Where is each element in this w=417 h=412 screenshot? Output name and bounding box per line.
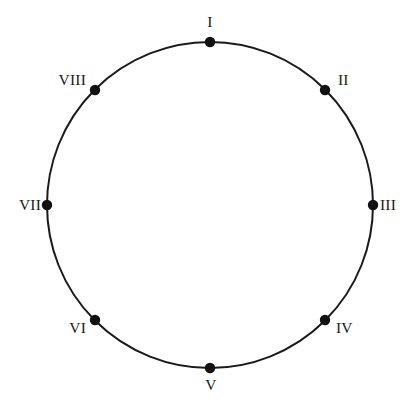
vertex-label: I — [207, 13, 212, 30]
vertex-point[interactable] — [205, 37, 215, 47]
vertex-label: IV — [336, 319, 353, 336]
vertex-label: VII — [19, 196, 41, 213]
vertex-point[interactable] — [42, 200, 52, 210]
vertex-point[interactable] — [320, 315, 330, 325]
vertex-label: VI — [69, 319, 86, 336]
vertex-label: II — [338, 71, 349, 88]
vertex-point[interactable] — [368, 200, 378, 210]
vertex-label: III — [380, 196, 396, 213]
vertex-point[interactable] — [90, 315, 100, 325]
vertex-point[interactable] — [205, 363, 215, 373]
diagram-background — [0, 0, 417, 412]
vertex-point[interactable] — [320, 85, 330, 95]
circle-diagram: I II III IV V VI VII VIII — [0, 0, 417, 412]
figure-root: I II III IV V VI VII VIII — [0, 0, 417, 412]
vertex-label: VIII — [59, 71, 86, 88]
vertex-point[interactable] — [90, 85, 100, 95]
vertex-label: V — [205, 376, 217, 393]
